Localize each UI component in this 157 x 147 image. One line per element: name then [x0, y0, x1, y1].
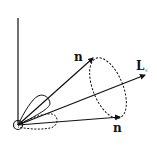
vector-n-upper: [18, 58, 93, 125]
vector-n-lower: [18, 117, 120, 125]
label-n-upper: n: [74, 50, 83, 64]
precession-cone-ellipse: [82, 53, 134, 124]
vector-L: [18, 75, 145, 125]
label-n-lower: n: [113, 121, 122, 135]
label-L-subscript: s: [145, 67, 148, 73]
label-L: L: [136, 59, 145, 73]
precession-diagram: n L s n: [0, 0, 157, 147]
